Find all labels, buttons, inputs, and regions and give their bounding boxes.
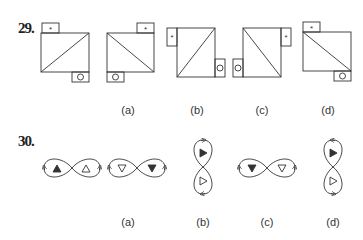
q29-option-b-figure[interactable]: * [167,28,225,77]
outline-triangle-down-icon [118,165,126,172]
q30-option-b-figure[interactable] [194,140,212,194]
filled-triangle-down-icon [248,165,256,172]
q29-question-figure: * [41,23,89,82]
star-icon: * [310,24,313,33]
outline-triangle-right-icon [200,177,207,185]
star-icon: * [284,33,287,42]
q30-option-d-figure[interactable] [324,140,342,194]
filled-triangle-down-icon [148,165,156,172]
filled-triangle-up-icon [53,165,61,172]
filled-triangle-right-icon [200,149,207,157]
q30-option-a-figure[interactable] [109,159,165,177]
outline-triangle-down-icon [278,165,286,172]
filled-triangle-right-icon [330,149,337,157]
q30-option-c-figure[interactable] [239,159,295,177]
star-icon: * [49,25,52,34]
star-icon: * [170,33,173,42]
q30-question-figure [44,159,100,177]
outline-triangle-right-icon [330,177,337,185]
q29-option-a-figure[interactable]: * [107,23,154,82]
q29-option-c-figure[interactable]: * [233,28,291,77]
outline-triangle-up-icon [82,165,90,172]
figures-canvas: * * * * [0,0,363,240]
q29-option-d-figure[interactable]: * [303,22,351,81]
star-icon: * [144,25,147,34]
